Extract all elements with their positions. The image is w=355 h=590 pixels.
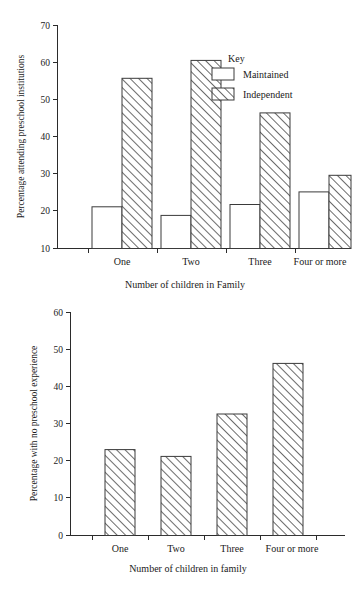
bottom-bar-three [217, 414, 247, 536]
bottom-x-axis: One Two Three Four or more Number of chi… [71, 536, 346, 575]
top-y-tick-labels: 10 20 30 40 50 60 70 [41, 21, 51, 254]
bottom-cat-four-or-more: Four or more [266, 543, 319, 554]
figure-page: 10 20 30 40 50 60 70 Percentage attendin… [0, 0, 355, 590]
top-ytick-40: 40 [41, 132, 51, 142]
bottom-x-ticks [92, 536, 316, 541]
top-bar-independent-one [122, 78, 152, 248]
top-x-axis-title: Number of children in Family [125, 279, 245, 290]
chart-bottom-canvas: 0 10 20 30 40 50 60 Percentage with no p… [0, 300, 355, 590]
bottom-y-axis: 0 10 20 30 40 50 60 Percentage with no p… [29, 308, 71, 541]
bottom-ytick-20: 20 [54, 456, 64, 466]
legend-swatch-maintained [212, 68, 234, 80]
top-bar-independent-four [329, 175, 351, 248]
top-ytick-10: 10 [41, 244, 51, 254]
top-ytick-20: 20 [41, 206, 51, 216]
bottom-y-axis-title: Percentage with no preschool experience [29, 346, 39, 502]
bottom-cat-three: Three [220, 543, 244, 554]
bottom-x-category-labels: One Two Three Four or more [112, 543, 319, 554]
top-ytick-60: 60 [41, 58, 51, 68]
bottom-x-axis-title: Number of children in family [129, 563, 247, 574]
top-x-category-labels: One Two Three Four or more [114, 256, 347, 267]
top-cat-four-or-more: Four or more [294, 256, 347, 267]
bottom-y-ticks [66, 312, 71, 535]
legend-swatch-independent [212, 88, 234, 100]
bottom-ytick-0: 0 [58, 531, 63, 541]
top-y-axis: 10 20 30 40 50 60 70 Percentage attendin… [16, 21, 58, 254]
bottom-cat-one: One [112, 543, 129, 554]
top-y-axis-title: Percentage attending preschool instituti… [16, 55, 26, 219]
top-ytick-70: 70 [41, 21, 51, 31]
chart-bottom: 0 10 20 30 40 50 60 Percentage with no p… [0, 300, 355, 590]
legend-label-maintained: Maintained [243, 69, 289, 80]
legend-title: Key [228, 53, 245, 64]
bottom-cat-two: Two [167, 543, 185, 554]
bottom-bar-two [161, 456, 191, 535]
top-ytick-50: 50 [41, 95, 51, 105]
top-cat-one: One [114, 256, 131, 267]
bottom-ytick-50: 50 [54, 345, 64, 355]
bottom-ytick-60: 60 [54, 308, 64, 318]
bottom-ytick-30: 30 [54, 419, 64, 429]
bottom-y-tick-labels: 0 10 20 30 40 50 60 [54, 308, 64, 541]
top-bar-maintained-two [161, 215, 191, 248]
top-x-ticks [88, 249, 295, 254]
top-cat-two: Two [182, 256, 200, 267]
bottom-bar-four [273, 363, 303, 535]
top-bar-maintained-four [299, 192, 329, 249]
chart-top: 10 20 30 40 50 60 70 Percentage attendin… [0, 0, 355, 300]
bottom-ytick-40: 40 [54, 382, 64, 392]
bottom-bar-one [105, 450, 135, 536]
top-bar-maintained-three [230, 205, 260, 249]
legend-label-independent: Independent [243, 89, 293, 100]
bottom-ytick-10: 10 [54, 493, 64, 503]
top-ytick-30: 30 [41, 169, 51, 179]
top-bar-independent-three [260, 113, 290, 249]
top-bar-maintained-one [92, 207, 122, 249]
top-cat-three: Three [248, 256, 272, 267]
top-legend: Key Maintained Independent [212, 53, 293, 100]
bottom-bars [105, 363, 303, 535]
chart-top-canvas: 10 20 30 40 50 60 70 Percentage attendin… [0, 0, 355, 300]
top-y-ticks [53, 25, 58, 248]
top-x-axis: One Two Three Four or more Number of chi… [58, 249, 347, 291]
